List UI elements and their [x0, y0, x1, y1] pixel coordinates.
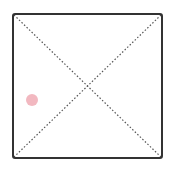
game-piece-pink[interactable]: [26, 94, 38, 106]
game-board[interactable]: [0, 0, 169, 177]
